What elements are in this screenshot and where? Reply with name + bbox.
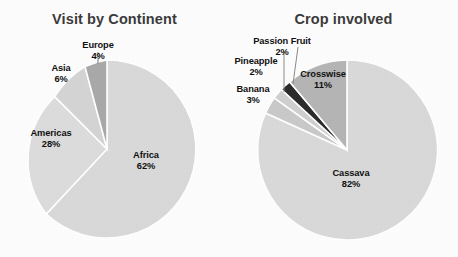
pie-label-africa-name: Africa <box>118 150 174 161</box>
pie-chart-figure: Visit by Continent Africa 62% Americas 2… <box>0 0 458 257</box>
pie-label-cassava-pct: 82% <box>321 179 381 190</box>
pie-label-banana-pct: 3% <box>225 95 281 106</box>
chart-panel-visit-by-continent: Visit by Continent Africa 62% Americas 2… <box>0 0 229 257</box>
pie-label-crosswise-name: Crosswise <box>291 69 355 80</box>
pie-label-cassava: Cassava 82% <box>321 168 381 189</box>
pie-label-crosswise: Crosswise 11% <box>291 69 355 90</box>
pie-label-africa: Africa 62% <box>118 150 174 171</box>
pie-label-pineapple: Pineapple 2% <box>225 56 287 77</box>
chart-panel-crop-involved: Crop involved Cassava 82% Crosswise 11% <box>229 0 458 257</box>
pie-label-africa-pct: 62% <box>118 161 174 172</box>
pie-label-banana-name: Banana <box>225 84 281 95</box>
pie-label-europe-pct: 4% <box>72 51 124 62</box>
pie-label-americas-pct: 28% <box>20 139 82 150</box>
pie-label-europe-name: Europe <box>72 40 124 51</box>
pie-label-pineapple-name: Pineapple <box>225 56 287 67</box>
pie-label-europe: Europe 4% <box>72 40 124 61</box>
pie-label-asia-name: Asia <box>40 63 82 74</box>
pie-label-asia-pct: 6% <box>40 74 82 85</box>
pie-label-passion-fruit: Passion Fruit 2% <box>244 36 320 57</box>
pie-label-americas: Americas 28% <box>20 128 82 149</box>
pie-label-cassava-name: Cassava <box>321 168 381 179</box>
pie-label-banana: Banana 3% <box>225 84 281 105</box>
pie-label-passion-fruit-name: Passion Fruit <box>244 36 320 47</box>
pie-label-americas-name: Americas <box>20 128 82 139</box>
pie-label-crosswise-pct: 11% <box>291 80 355 91</box>
pie-label-pineapple-pct: 2% <box>225 67 287 78</box>
pie-label-asia: Asia 6% <box>40 63 82 84</box>
